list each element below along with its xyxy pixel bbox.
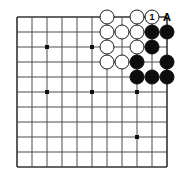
stone-white[interactable] — [115, 55, 130, 70]
stone-white-move-1[interactable]: 1 — [145, 10, 160, 25]
point-label-a[interactable]: A — [163, 12, 171, 23]
stone-white[interactable] — [100, 25, 115, 40]
stone-white[interactable] — [130, 25, 145, 40]
star-point — [90, 45, 94, 49]
stone-white[interactable] — [115, 25, 130, 40]
stone-black[interactable] — [160, 55, 175, 70]
star-point — [90, 90, 94, 94]
star-point — [45, 45, 49, 49]
move-number-label: 1 — [146, 11, 159, 24]
go-board-diagram: 1 A — [0, 0, 183, 182]
stone-black[interactable] — [160, 25, 175, 40]
stone-black[interactable] — [130, 55, 145, 70]
stone-black[interactable] — [160, 70, 175, 85]
stone-white[interactable] — [100, 40, 115, 55]
star-point — [135, 90, 139, 94]
stone-white[interactable] — [130, 40, 145, 55]
stone-white[interactable] — [130, 10, 145, 25]
stone-black[interactable] — [130, 70, 145, 85]
stone-white[interactable] — [100, 55, 115, 70]
star-point — [135, 135, 139, 139]
stone-black[interactable] — [145, 40, 160, 55]
stone-black[interactable] — [145, 25, 160, 40]
stone-black[interactable] — [145, 70, 160, 85]
star-point — [45, 90, 49, 94]
stone-white[interactable] — [100, 10, 115, 25]
